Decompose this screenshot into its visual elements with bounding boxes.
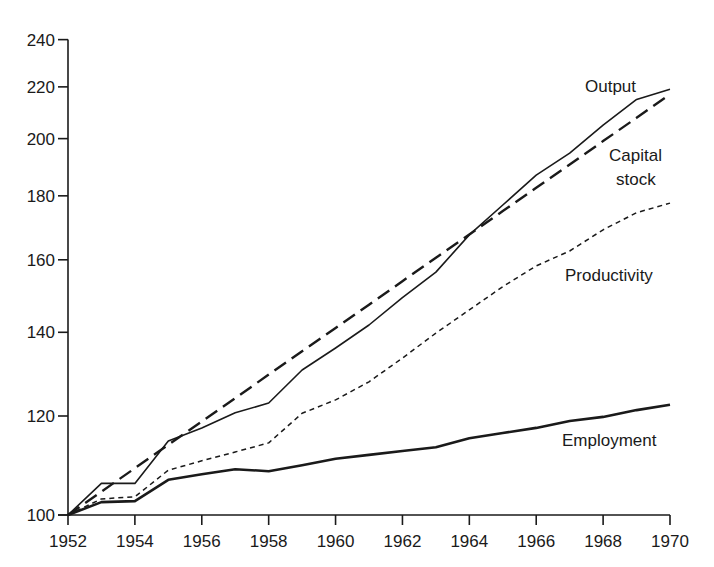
x-tick-label: 1954 [116, 532, 154, 551]
x-tick-label: 1970 [651, 532, 689, 551]
axes: 100120140160180200220240 195219541956195… [27, 31, 689, 551]
x-tick-label: 1952 [49, 532, 87, 551]
x-tick-label: 1966 [517, 532, 555, 551]
x-tick-label: 1968 [584, 532, 622, 551]
label-capital-stock-line1: Capital [609, 146, 662, 165]
x-tick-label: 1964 [450, 532, 488, 551]
x-ticks: 1952195419561958196019621964196619681970 [49, 515, 689, 551]
y-tick-label: 120 [27, 407, 55, 426]
x-tick-label: 1958 [250, 532, 288, 551]
label-productivity: Productivity [565, 266, 653, 285]
label-output: Output [585, 77, 636, 96]
y-tick-label: 100 [27, 506, 55, 525]
series-line-capital-stock [68, 94, 670, 515]
y-ticks: 100120140160180200220240 [27, 31, 68, 525]
y-tick-label: 240 [27, 31, 55, 50]
y-tick-label: 160 [27, 251, 55, 270]
series-lines [68, 89, 670, 515]
y-tick-label: 200 [27, 130, 55, 149]
y-tick-label: 140 [27, 323, 55, 342]
x-tick-label: 1956 [183, 532, 221, 551]
series-line-productivity [68, 203, 670, 515]
label-capital-stock-line2: stock [616, 170, 656, 189]
y-tick-label: 180 [27, 187, 55, 206]
y-tick-label: 220 [27, 78, 55, 97]
series-line-employment [68, 405, 670, 515]
x-tick-label: 1962 [384, 532, 422, 551]
x-tick-label: 1960 [317, 532, 355, 551]
line-chart: 100120140160180200220240 195219541956195… [0, 0, 714, 567]
label-employment: Employment [562, 431, 657, 450]
